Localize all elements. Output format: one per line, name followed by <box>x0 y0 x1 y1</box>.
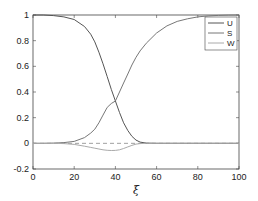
legend-label-w: W <box>227 39 235 48</box>
x-tick-label: 20 <box>69 172 79 182</box>
y-tick-label: -0.2 <box>13 164 29 174</box>
legend: USW <box>205 17 237 50</box>
x-tick-label: 100 <box>231 172 246 182</box>
y-tick-label: 0 <box>24 138 29 148</box>
y-tick-label: 1 <box>24 10 29 20</box>
y-tick-label: 0.4 <box>16 87 29 97</box>
x-tick-label: 80 <box>193 172 203 182</box>
y-tick-label: 0.2 <box>16 113 29 123</box>
legend-label-s: S <box>227 29 232 38</box>
legend-label-u: U <box>227 19 233 28</box>
x-tick-label: 40 <box>110 172 120 182</box>
y-tick-label: 0.8 <box>16 36 29 46</box>
x-tick-label: 0 <box>30 172 35 182</box>
y-tick-label: 0.6 <box>16 61 29 71</box>
x-axis-label: ξ <box>133 184 140 197</box>
line-chart: -0.200.20.40.60.81 020406080100 ξ USW <box>0 0 258 201</box>
x-tick-label: 60 <box>152 172 162 182</box>
